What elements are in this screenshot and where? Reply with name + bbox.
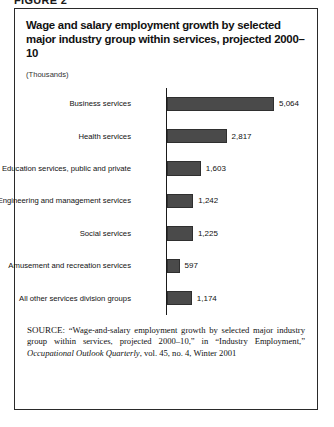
bar-value-label: 1,242 [198,196,218,205]
bar-rows: Business services5,064Health services2,8… [15,88,317,315]
bar-category-label: Engineering and management services [0,196,131,205]
bar-and-value: 597 [167,259,198,274]
bar [167,97,274,112]
bar-row: Social services1,225 [15,217,317,249]
bar-row: All other services division groups1,174 [15,282,317,314]
figure-heading: FIGURE 2 [14,0,67,6]
bar-and-value: 1,242 [167,194,218,209]
bar-and-value: 2,817 [167,129,252,144]
source-note: SOURCE: “Wage-and-salary employment grow… [27,325,305,360]
source-label: SOURCE: [27,325,65,335]
bar-chart: Business services5,064Health services2,8… [15,88,317,315]
bar [167,194,193,209]
chart-title: Wage and salary employment growth by sel… [26,18,307,61]
bar-row: Engineering and management services1,242 [15,185,317,217]
bar-category-label: All other services division groups [0,294,131,303]
bar-value-label: 2,817 [232,132,252,141]
bar [167,259,180,274]
bar-category-label: Social services [0,229,131,238]
bar-and-value: 1,603 [167,161,226,176]
bar [167,291,192,306]
source-publication-title: Occupational Outlook Quarterly [27,348,140,358]
source-text-after: , vol. 45, no. 4, Winter 2001 [140,348,237,358]
bar-value-label: 597 [185,261,198,270]
bar-category-label: Amusement and recreation services [0,261,131,270]
bar-row: Health services2,817 [15,120,317,152]
bar-and-value: 1,225 [167,226,218,241]
bar [167,226,193,241]
bar-value-label: 1,225 [198,229,218,238]
figure-panel: Wage and salary employment growth by sel… [14,8,318,410]
bar-category-label: Business services [0,99,131,108]
bar [167,129,227,144]
source-text-before: “Wage-and-salary employment growth by se… [27,325,305,347]
bar-and-value: 5,064 [167,97,299,112]
bar-row: Amusement and recreation services597 [15,250,317,282]
bar-value-label: 5,064 [279,99,299,108]
bar-and-value: 1,174 [167,291,217,306]
bar-row: Education services, public and private1,… [15,152,317,184]
units-label: (Thousands) [26,70,317,79]
bar-value-label: 1,603 [206,164,226,173]
bar-category-label: Education services, public and private [0,164,131,173]
bar-row: Business services5,064 [15,88,317,120]
bar [167,161,201,176]
bar-value-label: 1,174 [197,294,217,303]
bar-category-label: Health services [0,132,131,141]
